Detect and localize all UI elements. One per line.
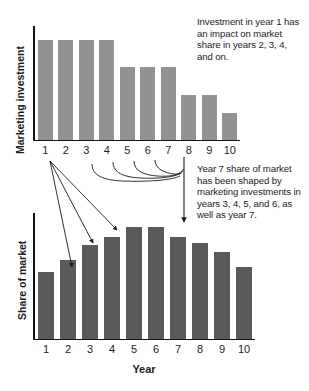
annotation-year7-shaped-by: Year 7 share of market has been shaped b… — [197, 163, 309, 221]
tick-marketing-investment-7: 7 — [158, 144, 179, 156]
tick-marketing-investment-6: 6 — [138, 144, 159, 156]
curve-year5-to-year7 — [134, 161, 182, 176]
bar-share-of-market-year-9 — [214, 252, 230, 339]
bar-marketing-investment-year-5 — [120, 67, 135, 140]
bar-marketing-investment-year-3 — [79, 40, 94, 140]
bar-share-of-market-year-1 — [38, 272, 54, 339]
tick-share-of-market-2: 2 — [57, 343, 79, 355]
tick-share-of-market-3: 3 — [79, 343, 101, 355]
y-axis-title-marketing-investment: Marketing investment — [14, 46, 26, 154]
bar-marketing-investment-year-8 — [181, 95, 196, 140]
tick-marketing-investment-3: 3 — [76, 144, 97, 156]
bar-share-of-market-year-2 — [60, 260, 76, 339]
bar-share-of-market-year-10 — [236, 267, 252, 339]
tick-marketing-investment-1: 1 — [35, 144, 56, 156]
bar-marketing-investment-year-7 — [161, 67, 176, 140]
bar-share-of-market-year-5 — [126, 227, 142, 339]
bar-marketing-investment-year-1 — [38, 40, 53, 140]
tick-marketing-investment-8: 8 — [179, 144, 200, 156]
curve-year4-to-year7 — [113, 162, 181, 178]
curve-year3-to-year7 — [92, 164, 180, 181]
tick-share-of-market-1: 1 — [35, 343, 57, 355]
y-axis-title-share-of-market: Share of market — [16, 241, 28, 320]
bar-marketing-investment-year-4 — [99, 40, 114, 140]
bar-share-of-market-year-8 — [192, 243, 208, 339]
bar-share-of-market-year-4 — [104, 237, 120, 339]
tick-share-of-market-8: 8 — [189, 343, 211, 355]
tick-share-of-market-7: 7 — [167, 343, 189, 355]
x-axis-line-top — [33, 140, 240, 141]
bar-share-of-market-year-3 — [82, 245, 98, 339]
share-of-market-chart: Share of market 12345678910 Year — [0, 200, 260, 385]
x-axis-title-year: Year — [33, 363, 255, 375]
arrow-group-into-year7 — [92, 160, 183, 181]
bar-share-of-market-year-7 — [170, 237, 186, 339]
tick-share-of-market-10: 10 — [233, 343, 255, 355]
tick-marketing-investment-4: 4 — [97, 144, 118, 156]
y-axis-line-bottom — [33, 213, 35, 340]
bar-marketing-investment-year-6 — [140, 67, 155, 140]
bar-marketing-investment-year-2 — [58, 40, 73, 140]
tick-share-of-market-5: 5 — [123, 343, 145, 355]
y-axis-line-top — [33, 26, 35, 141]
tick-marketing-investment-9: 9 — [199, 144, 220, 156]
tick-marketing-investment-5: 5 — [117, 144, 138, 156]
annotation-year1-impact: Investment in year 1 has an impact on ma… — [197, 16, 302, 62]
x-axis-line-bottom — [33, 339, 255, 340]
bar-share-of-market-year-6 — [148, 227, 164, 339]
tick-share-of-market-6: 6 — [145, 343, 167, 355]
marketing-share-figure: Marketing investment 12345678910 Share o… — [0, 0, 309, 391]
bar-marketing-investment-year-10 — [222, 113, 237, 140]
tick-marketing-investment-2: 2 — [56, 144, 77, 156]
tick-marketing-investment-10: 10 — [220, 144, 241, 156]
tick-share-of-market-9: 9 — [211, 343, 233, 355]
bar-marketing-investment-year-9 — [202, 95, 217, 140]
curve-year6-to-year7 — [155, 160, 183, 174]
tick-share-of-market-4: 4 — [101, 343, 123, 355]
